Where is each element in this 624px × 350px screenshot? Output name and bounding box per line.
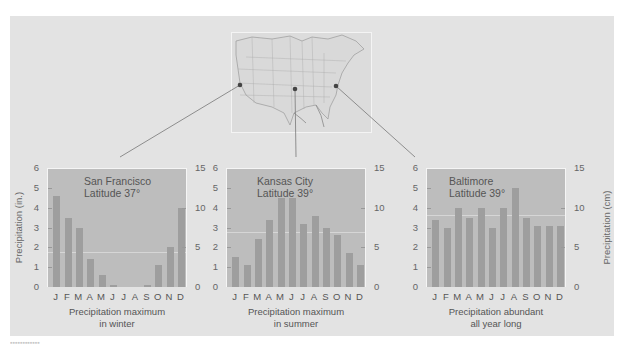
- month-label: F: [441, 291, 452, 302]
- month-label: A: [309, 291, 320, 302]
- left-tick-label: 6: [25, 162, 39, 173]
- left-tick-label: 4: [25, 202, 39, 213]
- left-tick-label: 6: [204, 162, 218, 173]
- average-line: [427, 215, 565, 216]
- left-tick-label: 0: [404, 281, 418, 292]
- right-tick-mark: [182, 208, 186, 209]
- left-tick-label: 5: [25, 182, 39, 193]
- map-outline-icon: [232, 33, 371, 132]
- city-name: Kansas City: [257, 175, 395, 187]
- left-tick-label: 0: [204, 281, 218, 292]
- left-tick-mark: [427, 208, 431, 209]
- city-name: Baltimore: [449, 175, 587, 187]
- left-tick-mark: [227, 228, 231, 229]
- left-tick-label: 1: [25, 261, 39, 272]
- chart-caption: Precipitation maximumin summer: [221, 306, 371, 330]
- right-tick-mark: [182, 247, 186, 248]
- month-label: A: [463, 291, 474, 302]
- month-label: J: [486, 291, 497, 302]
- left-tick-label: 6: [404, 162, 418, 173]
- city-latitude: Latitude 37°: [84, 187, 222, 199]
- bar-J: [232, 257, 239, 287]
- bar-J: [300, 224, 307, 287]
- right-tick-label: 10: [574, 202, 585, 213]
- month-label: O: [531, 291, 542, 302]
- bar-J: [289, 198, 296, 287]
- bar-M: [478, 208, 485, 287]
- bar-F: [65, 218, 72, 287]
- month-label: J: [50, 291, 61, 302]
- right-tick-label: 0: [374, 281, 379, 292]
- month-label: N: [343, 291, 354, 302]
- right-tick-label: 15: [374, 162, 385, 173]
- month-label: O: [331, 291, 342, 302]
- city-label: BaltimoreLatitude 39°: [427, 175, 587, 199]
- left-axis-label: Precipitation (in.): [13, 178, 24, 278]
- bar-N: [546, 226, 553, 287]
- right-tick-mark: [361, 208, 365, 209]
- month-label: J: [118, 291, 129, 302]
- bar-D: [557, 226, 564, 287]
- city-latitude: Latitude 39°: [257, 187, 395, 199]
- right-axis-label: Precipitation (cm): [601, 178, 612, 278]
- right-tick-label: 5: [195, 241, 200, 252]
- right-tick-mark: [561, 208, 565, 209]
- month-label: F: [241, 291, 252, 302]
- chart-caption: Precipitation maximumin winter: [42, 306, 192, 330]
- bar-A: [266, 220, 273, 287]
- left-tick-mark: [427, 247, 431, 248]
- bar-N: [346, 253, 353, 287]
- month-label: A: [84, 291, 95, 302]
- month-label: M: [252, 291, 263, 302]
- right-tick-mark: [561, 247, 565, 248]
- month-label: M: [275, 291, 286, 302]
- bar-J: [500, 208, 507, 287]
- bar-M: [99, 275, 106, 287]
- month-label: J: [286, 291, 297, 302]
- bar-J: [53, 196, 60, 287]
- left-tick-label: 3: [25, 222, 39, 233]
- bar-M: [76, 228, 83, 288]
- left-tick-label: 0: [25, 281, 39, 292]
- bar-M: [278, 198, 285, 287]
- bar-O: [334, 235, 341, 287]
- month-label: M: [452, 291, 463, 302]
- month-label: M: [73, 291, 84, 302]
- bar-S: [144, 285, 151, 287]
- plot-area: San FranciscoLatitude 37°: [47, 168, 187, 287]
- left-tick-mark: [227, 267, 231, 268]
- month-label: M: [96, 291, 107, 302]
- month-label: M: [475, 291, 486, 302]
- plot-area: BaltimoreLatitude 39°: [426, 168, 566, 287]
- bar-F: [444, 228, 451, 288]
- left-tick-label: 5: [404, 182, 418, 193]
- month-label: J: [229, 291, 240, 302]
- chart-caption: Precipitation abundantall year long: [421, 306, 571, 330]
- month-label: J: [497, 291, 508, 302]
- bar-O: [155, 265, 162, 287]
- month-label: J: [429, 291, 440, 302]
- month-label: S: [141, 291, 152, 302]
- left-tick-label: 1: [404, 261, 418, 272]
- month-label: N: [543, 291, 554, 302]
- city-label: San FranciscoLatitude 37°: [48, 175, 222, 199]
- city-latitude: Latitude 39°: [449, 187, 587, 199]
- bar-J: [110, 285, 117, 287]
- bar-M: [455, 208, 462, 287]
- left-tick-mark: [227, 208, 231, 209]
- caption-line-2: all year long: [421, 318, 571, 330]
- left-tick-label: 4: [404, 202, 418, 213]
- month-label: O: [152, 291, 163, 302]
- bar-A: [312, 216, 319, 287]
- month-label: A: [509, 291, 520, 302]
- left-tick-label: 2: [404, 241, 418, 252]
- bar-N: [167, 247, 174, 287]
- month-label: J: [297, 291, 308, 302]
- north-america-map: [231, 32, 372, 133]
- left-tick-mark: [48, 267, 52, 268]
- month-label: D: [175, 291, 186, 302]
- month-label: J: [107, 291, 118, 302]
- bar-J: [489, 228, 496, 288]
- left-tick-label: 3: [404, 222, 418, 233]
- bar-A: [512, 188, 519, 287]
